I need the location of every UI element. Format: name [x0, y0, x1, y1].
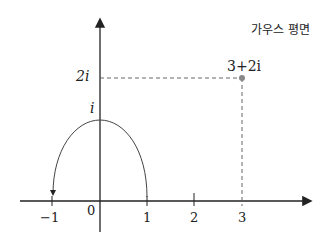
- label-2i: 2i: [76, 68, 89, 84]
- point-label: 3+2i: [227, 58, 261, 74]
- tick-label-1: 1: [143, 210, 151, 225]
- tick-label-2: 2: [190, 210, 198, 225]
- tick-label-neg1: −1: [40, 210, 59, 225]
- point-3-plus-2i: [239, 75, 245, 81]
- origin-label: 0: [87, 203, 95, 218]
- tick-label-3: 3: [238, 210, 246, 225]
- label-i: i: [90, 100, 94, 116]
